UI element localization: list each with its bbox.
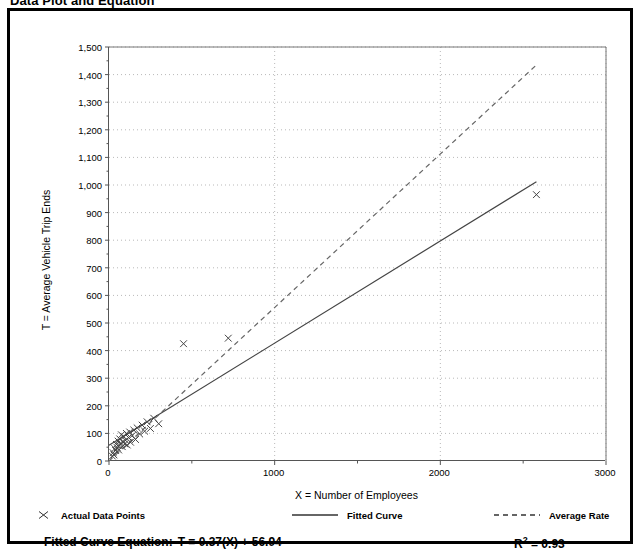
y-axis-tick-label: 700: [86, 262, 102, 273]
data-point-marker: [144, 418, 151, 425]
legend-item-label: Fitted Curve: [347, 510, 402, 521]
y-axis-tick-label: 1,100: [78, 152, 102, 163]
data-point-marker: [180, 340, 187, 347]
plot-canvas: [109, 47, 606, 461]
equation-expression: T = 0.37(X) + 56.94: [178, 535, 282, 549]
y-axis-tick-label: 1,500: [78, 42, 102, 53]
x-axis-tick-labels: 0100020003000: [108, 467, 605, 483]
rsquared-symbol: R: [514, 537, 523, 549]
y-axis-tick-label: 1,000: [78, 180, 102, 191]
y-axis-tick-label: 1,200: [78, 124, 102, 135]
data-point-marker: [533, 191, 540, 198]
y-axis-tick-label: 1,400: [78, 69, 102, 80]
fitted-curve-equation: Fitted Curve Equation:T = 0.37(X) + 56.9…: [44, 535, 282, 549]
legend-item: Actual Data Points: [36, 506, 145, 524]
figure-frame: 01002003004005006007008009001,0001,1001,…: [7, 8, 633, 544]
rsquared-number: = 0.93: [531, 537, 565, 549]
rsquared-exponent: 2: [523, 535, 528, 545]
data-point-group: [109, 191, 540, 459]
y-axis-tick-label: 900: [86, 207, 102, 218]
fitted-curve-line: [109, 182, 536, 446]
y-axis-tick-label: 500: [86, 318, 102, 329]
y-axis-tick-label: 0: [97, 456, 102, 467]
data-point-marker: [155, 420, 162, 427]
y-axis-tick-label: 800: [86, 235, 102, 246]
y-axis-title: T = Average Vehicle Trip Ends: [40, 160, 52, 360]
x-axis-tick-label: 2000: [429, 467, 450, 478]
data-point-marker: [225, 335, 232, 342]
page-title: Data Plot and Equation: [10, 0, 154, 8]
x-axis-tick-label: 1000: [263, 467, 284, 478]
y-axis-tick-label: 400: [86, 345, 102, 356]
x-axis-tick-label: 3000: [594, 467, 615, 478]
plot-area: [108, 47, 605, 461]
y-axis-tick-label: 200: [86, 400, 102, 411]
equation-label: Fitted Curve Equation:: [44, 535, 173, 549]
dashed-line-icon: [494, 509, 540, 521]
y-axis-tick-labels: 01002003004005006007008009001,0001,1001,…: [58, 47, 102, 461]
x-axis-title: X = Number of Employees: [108, 489, 605, 501]
legend-item: Fitted Curve: [292, 506, 402, 524]
average-rate-line: [109, 65, 536, 461]
legend-item-label: Actual Data Points: [61, 510, 145, 521]
chart-legend: Actual Data PointsFitted CurveAverage Ra…: [24, 506, 624, 526]
legend-item-label: Average Rate: [549, 510, 609, 521]
y-axis-tick-label: 600: [86, 290, 102, 301]
rsquared-value: R2 = 0.93: [514, 535, 565, 549]
legend-item: Average Rate: [494, 506, 609, 524]
cross-marker-icon: [36, 509, 52, 521]
y-axis-tick-label: 100: [86, 428, 102, 439]
x-axis-tick-label: 0: [105, 467, 110, 478]
solid-line-icon: [292, 509, 338, 521]
equation-row: Fitted Curve Equation:T = 0.37(X) + 56.9…: [24, 535, 624, 549]
y-axis-tick-label: 300: [86, 373, 102, 384]
y-axis-tick-label: 1,300: [78, 97, 102, 108]
